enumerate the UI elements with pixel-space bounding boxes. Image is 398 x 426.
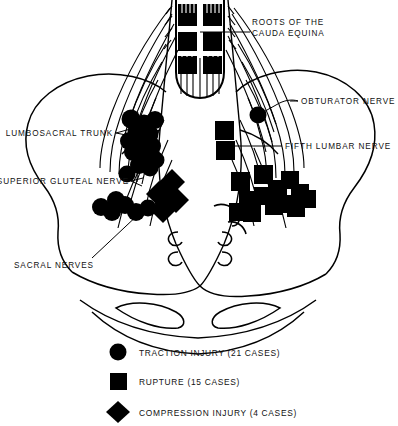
marker-rupture bbox=[231, 172, 250, 191]
label-roots-cauda-equina-line1: ROOTS OF THE bbox=[252, 18, 324, 27]
legend-label-traction-injury: TRACTION INJURY (21 CASES) bbox=[139, 348, 280, 358]
marker-rupture bbox=[216, 141, 235, 160]
label-sacral-nerves: SACRAL NERVES bbox=[14, 261, 94, 270]
label-lumbosacral-trunk: LUMBOSACRAL TRUNK bbox=[6, 129, 113, 138]
marker-rupture bbox=[243, 204, 261, 222]
figure-background bbox=[0, 0, 398, 426]
legend-label-compression-injury: COMPRESSION INJURY (4 CASES) bbox=[139, 408, 297, 418]
marker-rupture bbox=[215, 121, 234, 140]
label-superior-gluteal-nerve: SUPERIOR GLUTEAL NERVE bbox=[0, 177, 129, 186]
label-roots-cauda-equina-line2: CAUDA EQUINA bbox=[252, 29, 325, 38]
marker-traction bbox=[142, 160, 159, 177]
label-fifth-lumbar-nerve: FIFTH LUMBAR NERVE bbox=[285, 142, 391, 151]
label-obturator-nerve: OBTURATOR NERVE bbox=[301, 97, 395, 106]
marker-rupture bbox=[298, 190, 316, 208]
legend-marker-square-icon bbox=[110, 373, 127, 390]
legend-label-rupture: RUPTURE (15 CASES) bbox=[139, 377, 240, 387]
legend-marker-circle-icon bbox=[110, 344, 127, 361]
pelvis-injury-diagram: ROOTS OF THE CAUDA EQUINA OBTURATOR NERV… bbox=[0, 0, 398, 426]
